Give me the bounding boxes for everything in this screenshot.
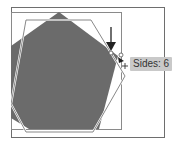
anchor-point-handle[interactable] [109,51,113,55]
pentagon-shape[interactable] [11,12,118,129]
drawing-canvas[interactable] [0,0,176,146]
sides-tooltip: Sides: 6 [130,57,172,71]
crosshair-cursor-icon [122,63,128,69]
vertex-handle[interactable] [119,53,123,57]
